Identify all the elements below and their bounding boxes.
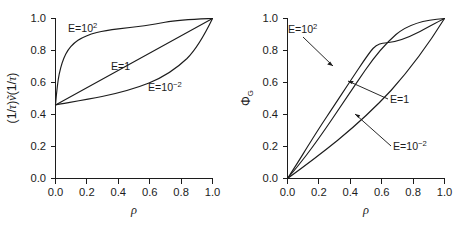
chart-panel-right: 0.0 0.2 0.4 0.6 0.8 1.0 0.0 0.2 0.4 0.6 … — [232, 0, 464, 230]
ylabel-phi: Φ — [239, 96, 253, 106]
y-ticks-right — [283, 19, 288, 179]
x-axis-label: ρ — [362, 203, 369, 217]
axis-lines — [288, 19, 445, 179]
y-ticklabels-right: 0.0 0.2 0.4 0.6 0.8 1.0 — [262, 12, 278, 184]
y-ticklabel: 0.6 — [262, 76, 278, 88]
curve-E-1e-2 — [288, 19, 445, 179]
axes-left — [56, 19, 213, 179]
curve-E-1 — [288, 19, 445, 179]
x-ticklabels-right: 0.0 0.2 0.4 0.6 0.8 1.0 — [280, 186, 453, 198]
x-ticklabel: 0.6 — [374, 186, 390, 198]
axes-right — [288, 19, 445, 179]
y-ticklabel: 0.0 — [262, 172, 278, 184]
chart-panel-left: 0.0 0.2 0.4 0.6 0.8 1.0 0.0 0.2 0.4 0.6 … — [0, 0, 232, 230]
x-ticklabel: 0.4 — [111, 186, 127, 198]
svg-text:ΦG: ΦG — [239, 90, 255, 106]
curve-label-E-1: E=1 — [390, 93, 409, 105]
curve-label-E-1e2: E=102 — [288, 22, 317, 35]
y-ticklabel: 0.8 — [262, 44, 278, 56]
x-axis-label: ρ — [130, 203, 137, 217]
curve-label-E-1e-2: E=10−2 — [393, 139, 427, 152]
curve-label-E-1e-2: E=10−2 — [148, 80, 182, 93]
x-ticklabel: 0.0 — [280, 186, 296, 198]
x-ticks-right — [288, 179, 445, 184]
axis-lines — [56, 19, 213, 179]
y-ticklabels-left: 0.0 0.2 0.4 0.6 0.8 1.0 — [30, 12, 46, 184]
x-ticklabel: 1.0 — [205, 186, 221, 198]
y-ticklabel: 1.0 — [262, 12, 278, 24]
ylabel-open1: (1/ — [5, 109, 19, 124]
ylabel-open2: (1/ — [5, 80, 19, 95]
x-ticklabel: 0.2 — [311, 186, 327, 198]
x-ticklabel: 0.6 — [142, 186, 158, 198]
ylabel-close2: ) — [5, 73, 19, 77]
y-ticklabel: 0.2 — [30, 140, 46, 152]
y-axis-label: (1/τ)ṽ(1/τ) — [5, 73, 19, 124]
y-ticklabel: 0.2 — [262, 140, 278, 152]
y-ticklabel: 0.4 — [262, 108, 278, 120]
curve-label-E-1e2: E=102 — [68, 21, 97, 34]
y-ticklabel: 0.8 — [30, 44, 46, 56]
y-ticklabel: 0.4 — [30, 108, 46, 120]
y-axis-label: ΦG — [239, 90, 255, 106]
x-ticklabel: 0.2 — [79, 186, 95, 198]
ylabel-sub-g: G — [246, 90, 255, 96]
x-ticklabel: 1.0 — [437, 186, 453, 198]
two-panel-figure: 0.0 0.2 0.4 0.6 0.8 1.0 0.0 0.2 0.4 0.6 … — [0, 0, 464, 230]
x-ticklabel: 0.8 — [405, 186, 421, 198]
y-ticks-left — [51, 19, 56, 179]
arrowhead-E-1e2 — [327, 62, 333, 67]
x-ticks-left — [56, 179, 213, 184]
x-ticklabels-left: 0.0 0.2 0.4 0.6 0.8 1.0 — [48, 186, 221, 198]
x-ticklabel: 0.0 — [48, 186, 64, 198]
svg-text:(1/τ)ṽ(1/τ): (1/τ)ṽ(1/τ) — [5, 73, 19, 124]
y-ticklabel: 0.6 — [30, 76, 46, 88]
y-ticklabel: 1.0 — [30, 12, 46, 24]
curve-E-1e2 — [288, 19, 445, 179]
x-ticklabel: 0.8 — [173, 186, 189, 198]
curve-label-E-1: E=1 — [111, 60, 130, 72]
x-ticklabel: 0.4 — [343, 186, 359, 198]
y-ticklabel: 0.0 — [30, 172, 46, 184]
